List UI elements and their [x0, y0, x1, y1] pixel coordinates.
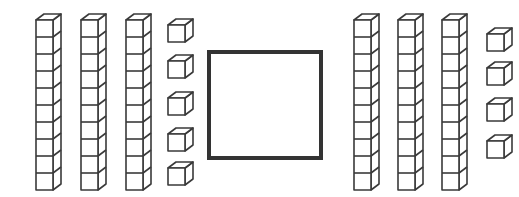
- front-face: [168, 25, 185, 42]
- ten-rod: [81, 14, 106, 190]
- right-group-blocks: [354, 14, 512, 190]
- unit-cube: [487, 135, 512, 158]
- ten-rod: [36, 14, 61, 190]
- unit-cube: [487, 98, 512, 121]
- front-face: [168, 134, 185, 151]
- unit-cube: [168, 55, 193, 78]
- ten-rod: [398, 14, 423, 190]
- front-face: [487, 104, 504, 121]
- unit-cube: [487, 28, 512, 51]
- front-face: [168, 168, 185, 185]
- base-ten-diagram: [0, 0, 519, 197]
- front-face: [487, 141, 504, 158]
- left-group-blocks: [36, 14, 193, 190]
- ten-rod: [442, 14, 467, 190]
- unit-cube: [168, 19, 193, 42]
- front-face: [168, 98, 185, 115]
- answer-box[interactable]: [209, 52, 321, 158]
- front-face: [487, 68, 504, 85]
- ten-rod: [354, 14, 379, 190]
- unit-cube: [168, 92, 193, 115]
- ten-rod: [126, 14, 151, 190]
- front-face: [487, 34, 504, 51]
- front-face: [168, 61, 185, 78]
- unit-cube: [168, 162, 193, 185]
- unit-cube: [168, 128, 193, 151]
- unit-cube: [487, 62, 512, 85]
